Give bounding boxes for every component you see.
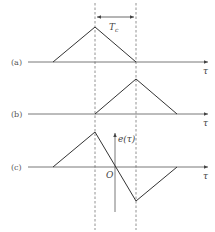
panel-c-axis-label: τ <box>203 171 209 181</box>
panel-c-vertical-axis-label: e(τ) <box>118 134 136 144</box>
diagram: Tc (a) τ (b) τ (c) τ e(τ) O <box>0 0 215 232</box>
panel-a-axis-label: τ <box>203 66 209 76</box>
panel-c-label: (c) <box>11 163 22 172</box>
panel-b: (b) τ <box>11 79 209 128</box>
panel-b-label: (b) <box>11 110 22 119</box>
panel-c-origin-label: O <box>106 170 114 180</box>
panel-a: (a) τ <box>11 27 209 76</box>
panel-a-triangle <box>53 27 136 62</box>
panel-b-axis-label: τ <box>203 118 209 128</box>
panel-a-label: (a) <box>11 58 22 67</box>
tc-label: Tc <box>109 22 119 33</box>
panel-c: (c) τ e(τ) O <box>11 132 209 212</box>
